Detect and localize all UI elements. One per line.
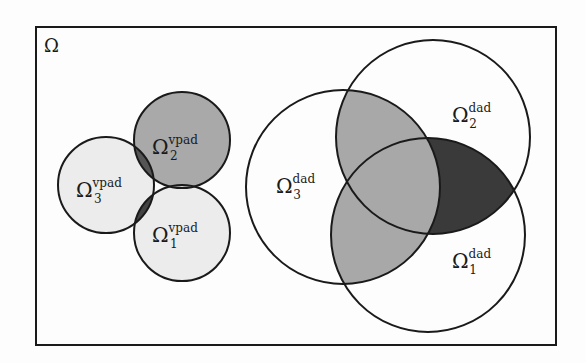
venn-diagram: Ω Ωvpad2 Ωvpad3 Ωvpad1 Ωdad2 Ωdad3 Ωdad1 (0, 0, 586, 363)
dad-label-1: Ωdad1 (452, 247, 491, 277)
dad-group: Ωdad2 Ωdad3 Ωdad1 (246, 40, 530, 332)
vpad-group: Ωvpad2 Ωvpad3 Ωvpad1 (58, 92, 230, 281)
dad-label-2: Ωdad2 (452, 101, 491, 131)
dad-label-3: Ωdad3 (276, 172, 315, 202)
domain-label: Ω (44, 35, 59, 56)
